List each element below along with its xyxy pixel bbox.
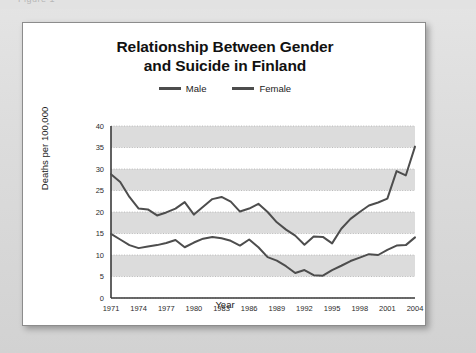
y-tick-label: 30	[96, 165, 104, 174]
grid-band	[111, 255, 415, 277]
y-axis-title: Deaths per 100,000	[39, 84, 50, 214]
grid-band	[111, 169, 415, 191]
y-tick-label: 25	[96, 186, 104, 195]
cut-off-header-text: Figure 1	[18, 0, 55, 4]
x-axis-title: Year	[23, 299, 427, 310]
cut-off-header-strip: Figure 1	[0, 0, 476, 9]
y-tick-label: 5	[100, 272, 104, 281]
grid-band	[111, 126, 415, 148]
chart-card: Relationship Between Gender and Suicide …	[22, 22, 426, 326]
y-tick-label: 40	[96, 122, 104, 131]
y-tick-label: 10	[96, 251, 104, 260]
line-chart-svg: 0510152025303540 19711974197719801983198…	[23, 23, 427, 327]
y-tick-label: 35	[96, 143, 104, 152]
y-tick-label: 20	[96, 208, 104, 217]
y-tick-label: 15	[96, 229, 104, 238]
plot-area-wrapper: 0510152025303540 19711974197719801983198…	[23, 23, 427, 327]
y-tick-labels: 0510152025303540	[96, 122, 104, 303]
